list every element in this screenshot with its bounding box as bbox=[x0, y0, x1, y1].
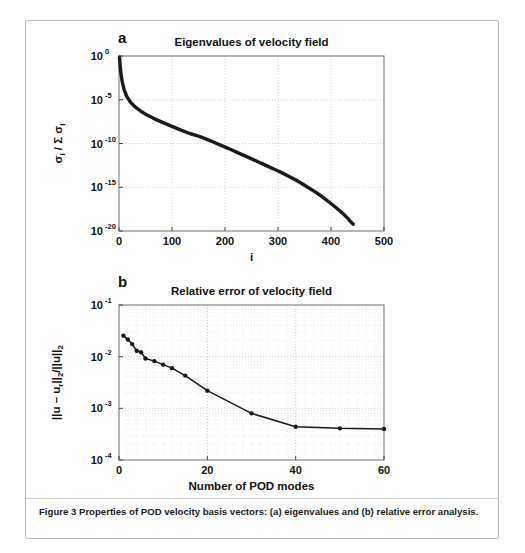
plot-frame bbox=[119, 305, 384, 460]
y-tick-label: 10 bbox=[91, 138, 103, 150]
x-tick-label: 100 bbox=[163, 235, 181, 247]
data-point-marker bbox=[338, 426, 342, 430]
x-tick-label: 60 bbox=[378, 464, 390, 476]
data-point-marker bbox=[205, 388, 209, 392]
data-point-marker bbox=[382, 427, 386, 431]
svg-text:σi / Σ σi: σi / Σ σi bbox=[52, 124, 67, 164]
x-tick-label: 0 bbox=[116, 464, 122, 476]
y-tick-label: 10 bbox=[91, 299, 103, 311]
data-point-marker bbox=[152, 359, 156, 363]
y-tick-exponent: -2 bbox=[105, 348, 112, 357]
chart-title: Relative error of velocity field bbox=[171, 285, 332, 297]
data-point-marker bbox=[134, 349, 138, 353]
data-point-marker bbox=[126, 337, 130, 341]
y-tick-exponent: -3 bbox=[105, 399, 112, 408]
y-tick-label: 10 bbox=[91, 181, 103, 193]
y-tick-label: 10 bbox=[91, 50, 103, 62]
y-tick-exponent: -4 bbox=[105, 451, 112, 460]
x-axis-label: Number of POD modes bbox=[189, 480, 315, 492]
data-point-marker bbox=[143, 356, 147, 360]
relative-error-chart: Relative error of velocity field02040601… bbox=[26, 273, 500, 498]
y-tick-label: 10 bbox=[91, 402, 103, 414]
x-tick-label: 20 bbox=[201, 464, 213, 476]
y-tick-label: 10 bbox=[91, 94, 103, 106]
y-axis-label: ||u – ur||2/||u||2 bbox=[50, 345, 65, 420]
eigenvalues-chart: Eigenvalues of velocity field01002003004… bbox=[26, 21, 500, 273]
data-point-marker bbox=[130, 342, 134, 346]
caption-divider bbox=[26, 498, 498, 499]
svg-text:||u – ur||2/||u||2: ||u – ur||2/||u||2 bbox=[50, 345, 65, 420]
y-tick-exponent: 0 bbox=[105, 47, 109, 56]
data-point-marker bbox=[249, 411, 253, 415]
x-tick-label: 0 bbox=[116, 235, 122, 247]
data-series-line bbox=[123, 336, 384, 429]
x-axis-label: i bbox=[250, 251, 253, 263]
y-tick-label: 10 bbox=[91, 351, 103, 363]
y-tick-exponent: -20 bbox=[105, 222, 116, 231]
y-tick-label: 10 bbox=[91, 454, 103, 466]
y-tick-exponent: -1 bbox=[105, 296, 112, 305]
figure-border: a Eigenvalues of velocity field010020030… bbox=[25, 20, 499, 539]
panel-a-label: a bbox=[118, 29, 126, 46]
y-tick-exponent: -10 bbox=[105, 135, 116, 144]
data-point-marker bbox=[293, 425, 297, 429]
data-point-marker bbox=[183, 373, 187, 377]
figure-caption: Figure 3 Properties of POD velocity basi… bbox=[39, 505, 487, 518]
data-point-marker bbox=[161, 362, 165, 366]
x-tick-label: 40 bbox=[290, 464, 302, 476]
data-point-marker bbox=[121, 333, 125, 337]
y-axis-label: σi / Σ σi bbox=[52, 124, 67, 164]
chart-title: Eigenvalues of velocity field bbox=[174, 36, 328, 48]
panel-b-relative-error: b Relative error of velocity field020406… bbox=[26, 273, 500, 498]
x-tick-label: 200 bbox=[216, 235, 234, 247]
x-tick-label: 300 bbox=[269, 235, 287, 247]
data-point-marker bbox=[170, 366, 174, 370]
x-tick-label: 400 bbox=[322, 235, 340, 247]
y-tick-label: 10 bbox=[91, 225, 103, 237]
data-point-marker bbox=[139, 350, 143, 354]
x-tick-label: 500 bbox=[375, 235, 393, 247]
y-tick-exponent: -15 bbox=[105, 178, 116, 187]
panel-a-eigenvalues: a Eigenvalues of velocity field010020030… bbox=[26, 21, 500, 273]
panel-b-label: b bbox=[118, 273, 127, 290]
data-series-line bbox=[120, 57, 354, 224]
y-tick-exponent: -5 bbox=[105, 91, 112, 100]
